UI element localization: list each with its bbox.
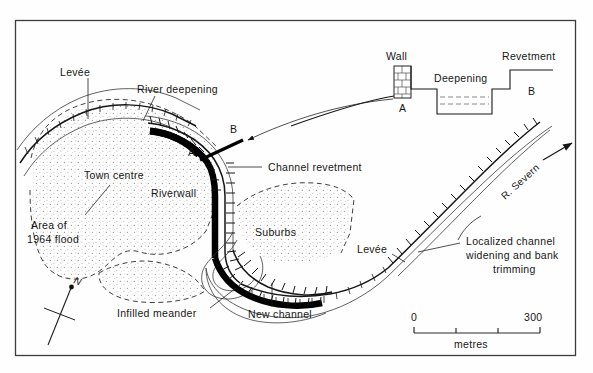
label-river-severn: R. Severn <box>499 162 541 202</box>
label-xs-a: A <box>399 102 406 114</box>
label-section-b-map: B <box>230 123 237 135</box>
section-connector-arrow <box>248 99 393 140</box>
map-figure: Levée River deepening Channel revetment … <box>0 0 593 373</box>
river-flow-arrow <box>543 143 572 160</box>
label-xs-deepening: Deepening <box>434 72 488 84</box>
label-area-flood-line1: Area of <box>31 219 67 231</box>
levee-right-line <box>241 268 388 296</box>
severn-outer-right <box>326 126 552 312</box>
label-town-centre: Town centre <box>84 169 144 181</box>
label-localized-2: widening and bank <box>465 249 559 261</box>
label-suburbs: Suburbs <box>255 226 296 238</box>
scale-min-label: 0 <box>411 311 417 323</box>
leader-localized-2 <box>418 243 460 252</box>
scale-unit-label: metres <box>454 338 488 350</box>
label-localized-1: Localized channel <box>466 235 555 247</box>
label-levee-left: Levée <box>60 66 90 78</box>
label-section-a-map: A <box>188 146 195 158</box>
figure-root: Levée River deepening Channel revetment … <box>0 0 593 373</box>
label-infilled-meander: Infilled meander <box>117 307 197 319</box>
label-localized-3: trimming <box>493 263 536 275</box>
scale-bar <box>414 327 540 333</box>
label-xs-b: B <box>528 85 535 97</box>
channel-revetment-line <box>225 196 240 283</box>
label-xs-wall: Wall <box>386 50 407 62</box>
north-arrow <box>44 285 75 345</box>
label-new-channel: New channel <box>248 308 312 320</box>
suburbs-area <box>238 184 352 263</box>
scale-max-label: 300 <box>524 311 542 323</box>
label-levee-right: Levée <box>357 243 387 255</box>
xs-wall-block <box>394 66 411 98</box>
town-centre-tail <box>100 260 204 301</box>
label-channel-revetment: Channel revetment <box>268 161 362 173</box>
leader-levee-right <box>392 254 405 262</box>
new-channel-wall <box>215 258 322 306</box>
xs-water-lines <box>440 97 489 104</box>
label-riverwall: Riverwall <box>151 187 196 199</box>
label-river-deepening: River deepening <box>137 83 218 95</box>
label-area-flood-line2: 1964 flood <box>27 233 79 245</box>
label-xs-revetment: Revetment <box>502 50 555 62</box>
